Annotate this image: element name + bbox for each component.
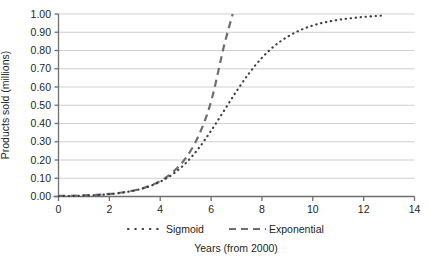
x-tick-label: 6 (208, 203, 214, 215)
x-tick-label: 4 (157, 203, 163, 215)
legend-label-exponential: Exponential (269, 223, 324, 235)
x-tick-label: 2 (106, 203, 112, 215)
y-tick-label: 1.00 (31, 8, 52, 20)
y-tick-label: 0.90 (31, 26, 52, 38)
y-tick-label: 0.60 (31, 81, 52, 93)
y-axis-tick-labels: 0.000.100.200.300.400.500.600.700.800.90… (31, 8, 52, 203)
x-tick-label: 0 (56, 203, 62, 215)
legend-label-sigmoid: Sigmoid (166, 223, 204, 235)
y-axis-title: Products sold (millions) (0, 51, 11, 160)
x-tick-label: 14 (409, 203, 421, 215)
y-tick-label: 0.00 (31, 190, 52, 202)
y-tick-label: 0.30 (31, 135, 52, 147)
y-tick-label: 0.80 (31, 44, 52, 56)
chart-background (0, 0, 431, 260)
y-tick-label: 0.20 (31, 154, 52, 166)
y-tick-label: 0.50 (31, 99, 52, 111)
x-axis-title: Years (from 2000) (194, 242, 278, 254)
chart-container: 0.000.100.200.300.400.500.600.700.800.90… (0, 0, 431, 260)
x-tick-label: 12 (358, 203, 370, 215)
x-tick-label: 8 (259, 203, 265, 215)
y-tick-label: 0.40 (31, 117, 52, 129)
y-tick-label: 0.10 (31, 172, 52, 184)
x-tick-label: 10 (307, 203, 319, 215)
y-tick-label: 0.70 (31, 62, 52, 74)
products-sold-line-chart: 0.000.100.200.300.400.500.600.700.800.90… (0, 0, 431, 260)
